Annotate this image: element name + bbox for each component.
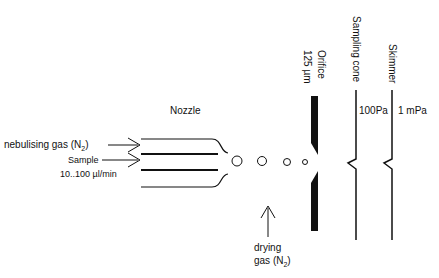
nozzle-outer-top: [141, 139, 228, 153]
drying-gas-label-line2: gas (N2): [254, 255, 291, 268]
droplet-medium: [258, 157, 267, 166]
droplet-small: [284, 159, 291, 166]
svg-text:Skimmer: Skimmer: [387, 44, 398, 84]
orifice-lower: [311, 171, 318, 231]
orifice-label: Orifice 125 µm: [302, 50, 327, 84]
flow-rate-label: 10..100 µl/min: [60, 169, 117, 179]
sample-arrow: [102, 153, 140, 167]
nozzle-label: Nozzle: [170, 105, 201, 116]
drying-gas-label-line1: drying: [254, 242, 281, 253]
sampling-cone-pressure: 100Pa: [359, 105, 388, 116]
esi-source-diagram: Nozzle nebulising gas (N2) Sample 10..10…: [0, 0, 439, 278]
nozzle-outer-bottom: [141, 174, 228, 187]
orifice-upper: [311, 96, 318, 155]
droplet-large: [232, 156, 242, 166]
nozzle: [141, 139, 228, 187]
droplet-smallest: [303, 160, 308, 165]
sampling-cone-label: Sampling cone: [351, 16, 362, 83]
droplets: [232, 156, 308, 166]
orifice-name: Orifice: [316, 50, 327, 79]
skimmer-pressure: 1 mPa: [398, 105, 427, 116]
sampling-cone: [348, 90, 356, 240]
drying-gas-arrow: [261, 206, 275, 237]
skimmer-label: Skimmer: [387, 44, 398, 84]
orifice-plate: [311, 96, 318, 231]
nebulising-gas-arrow: [108, 138, 140, 152]
orifice-size: 125 µm: [302, 50, 313, 84]
sample-label: Sample: [68, 155, 99, 165]
nebulising-gas-label: nebulising gas (N2): [4, 139, 89, 152]
svg-text:Sampling cone: Sampling cone: [351, 16, 362, 83]
